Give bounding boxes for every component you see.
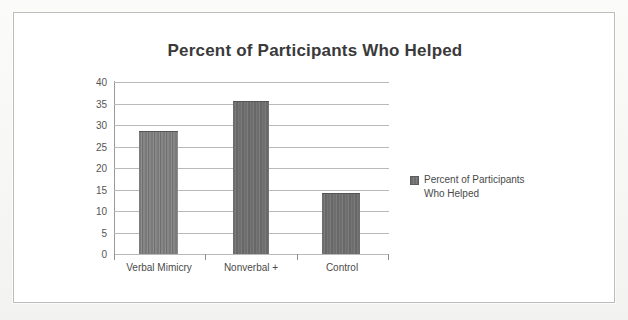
legend-label-line-2: Who Helped bbox=[424, 188, 479, 199]
y-tick-label-35: 35 bbox=[96, 98, 107, 109]
bar-verbal-mimicry[interactable] bbox=[139, 131, 178, 254]
chart-legend: Percent of Participants Who Helped bbox=[410, 173, 560, 201]
y-tick-label-10: 10 bbox=[96, 206, 107, 217]
legend-entry-label: Percent of Participants Who Helped bbox=[424, 173, 525, 201]
x-tick-0 bbox=[114, 254, 115, 260]
plot-area: 40 35 30 25 20 15 10 5 0 bbox=[114, 82, 389, 254]
y-tick-label-30: 30 bbox=[96, 120, 107, 131]
y-tick-label-15: 15 bbox=[96, 184, 107, 195]
y-tick-label-5: 5 bbox=[101, 227, 107, 238]
y-tick-label-0: 0 bbox=[101, 249, 107, 260]
x-axis-label-nonverbal-plus: Nonverbal + bbox=[224, 262, 278, 273]
chart-title: Percent of Participants Who Helped bbox=[14, 41, 616, 61]
bar-nonverbal-plus[interactable] bbox=[233, 101, 269, 255]
y-tick-label-20: 20 bbox=[96, 163, 107, 174]
chart-container: Percent of Participants Who Helped 40 35… bbox=[13, 12, 615, 303]
legend-square-icon bbox=[410, 176, 419, 185]
gridline-40: 40 bbox=[114, 82, 389, 83]
x-tick-2 bbox=[297, 254, 298, 260]
bar-control[interactable] bbox=[322, 193, 360, 255]
x-tick-3 bbox=[388, 254, 389, 260]
legend-label-line-1: Percent of Participants bbox=[424, 174, 525, 185]
page-background: Percent of Participants Who Helped 40 35… bbox=[0, 0, 628, 320]
y-tick-label-25: 25 bbox=[96, 141, 107, 152]
x-axis-label-control: Control bbox=[326, 262, 358, 273]
x-tick-1 bbox=[205, 254, 206, 260]
gridline-0: 0 bbox=[114, 254, 389, 255]
y-tick-label-40: 40 bbox=[96, 77, 107, 88]
x-axis-label-verbal-mimicry: Verbal Mimicry bbox=[126, 262, 192, 273]
